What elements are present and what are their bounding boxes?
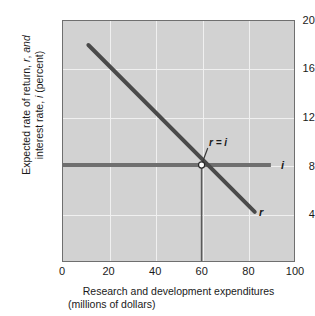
annotation-r-equals-i: r = i xyxy=(209,138,227,148)
y-axis-title-part1: Expected rate of return, xyxy=(20,62,32,175)
x-axis-title-line1: Research and development expenditures xyxy=(83,285,274,297)
x-tick-label-0: 0 xyxy=(42,266,82,277)
y-axis-title: Expected rate of return, r, andinterest … xyxy=(20,5,46,205)
chart-container: Expected rate of return, r, andinterest … xyxy=(0,0,315,316)
x-axis-title-line2: (millions of dollars) xyxy=(62,298,295,311)
y-axis-title-i: i xyxy=(33,96,45,98)
curve-label-i: i xyxy=(281,160,284,171)
y-axis-title-and: and xyxy=(20,35,32,53)
x-tick-label-40: 40 xyxy=(135,266,175,277)
x-tick-label-100: 100 xyxy=(275,266,315,277)
x-tick-label-20: 20 xyxy=(89,266,129,277)
x-tick-label-60: 60 xyxy=(182,266,222,277)
equilibrium-marker xyxy=(199,162,205,168)
curve-label-r: r xyxy=(259,207,263,218)
x-tick-label-80: 80 xyxy=(228,266,268,277)
y-axis-title-part2: interest rate, xyxy=(33,98,45,159)
y-axis-title-r: r xyxy=(20,59,32,63)
curve-r-line xyxy=(88,45,254,212)
y-axis-title-units: (percent) xyxy=(33,51,45,96)
curves-layer xyxy=(63,21,294,261)
plot-area: r = i i r xyxy=(62,20,295,262)
x-axis-title: Research and development expenditures (m… xyxy=(62,285,295,311)
y-axis-title-comma: , xyxy=(20,53,32,59)
